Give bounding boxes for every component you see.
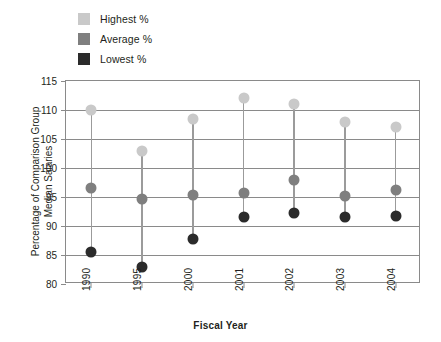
y-tick-105: [61, 139, 66, 140]
range-stem-1990: [91, 110, 93, 252]
gridline-85: [66, 255, 419, 256]
chart-canvas: Highest % Average % Lowest % Percentage …: [0, 0, 441, 342]
data-point-highest-2000: [187, 113, 198, 124]
range-stem-2003: [344, 122, 346, 217]
data-point-highest-1990: [86, 105, 97, 116]
data-point-average-2002: [289, 174, 300, 185]
data-point-average-2001: [238, 187, 249, 198]
x-tick-label-2003: 2003: [334, 268, 345, 291]
y-tick-115: [61, 81, 66, 82]
y-tick-95: [61, 197, 66, 198]
data-point-average-2004: [390, 185, 401, 196]
legend-item-lowest: Lowest %: [78, 50, 152, 68]
data-point-average-2003: [339, 190, 350, 201]
range-stem-1995: [141, 151, 143, 267]
range-stem-2000: [192, 119, 194, 239]
y-tick-label-105: 105: [40, 134, 57, 145]
x-tick-label-2004: 2004: [385, 268, 396, 291]
legend-swatch-highest: [78, 13, 90, 25]
legend-label-lowest: Lowest %: [100, 53, 146, 65]
data-point-highest-2004: [390, 122, 401, 133]
y-tick-110: [61, 110, 66, 111]
data-point-lowest-2002: [289, 208, 300, 219]
y-tick-100: [61, 168, 66, 169]
data-point-average-1995: [137, 193, 148, 204]
data-point-lowest-2000: [187, 233, 198, 244]
y-tick-90: [61, 226, 66, 227]
y-tick-label-95: 95: [46, 192, 57, 203]
data-point-lowest-2004: [390, 210, 401, 221]
x-tick-label-1990: 1990: [81, 268, 92, 291]
gridline-90: [66, 226, 419, 227]
range-stem-2004: [395, 127, 397, 215]
legend-item-highest: Highest %: [78, 10, 152, 28]
x-tick-label-2001: 2001: [233, 268, 244, 291]
legend-swatch-average: [78, 33, 90, 45]
legend-label-average: Average %: [100, 33, 152, 45]
y-tick-label-100: 100: [40, 163, 57, 174]
range-stem-2002: [293, 104, 295, 213]
data-point-lowest-2003: [339, 211, 350, 222]
data-point-average-1990: [86, 183, 97, 194]
y-tick-label-80: 80: [46, 279, 57, 290]
y-tick-label-115: 115: [41, 76, 57, 87]
x-tick-label-1995: 1995: [132, 268, 143, 291]
y-tick-85: [61, 255, 66, 256]
legend-label-highest: Highest %: [100, 13, 149, 25]
data-point-highest-2002: [289, 99, 300, 110]
x-axis-title: Fiscal Year: [0, 320, 441, 331]
y-tick-label-110: 110: [41, 105, 57, 116]
plot-area: 8085909510010511011519901995200020012002…: [65, 80, 420, 283]
y-tick-label-90: 90: [46, 221, 57, 232]
x-tick-label-2000: 2000: [182, 268, 193, 291]
data-point-lowest-2001: [238, 212, 249, 223]
legend-swatch-lowest: [78, 53, 90, 65]
y-tick-label-85: 85: [46, 250, 57, 261]
data-point-lowest-1990: [86, 247, 97, 258]
x-tick-label-2002: 2002: [284, 268, 295, 291]
range-stem-2001: [243, 98, 245, 217]
data-point-highest-2003: [339, 116, 350, 127]
data-point-highest-1995: [137, 145, 148, 156]
data-point-highest-2001: [238, 93, 249, 104]
data-point-average-2000: [187, 190, 198, 201]
legend-item-average: Average %: [78, 30, 152, 48]
y-tick-80: [61, 284, 66, 285]
chart-legend: Highest % Average % Lowest %: [78, 10, 152, 70]
